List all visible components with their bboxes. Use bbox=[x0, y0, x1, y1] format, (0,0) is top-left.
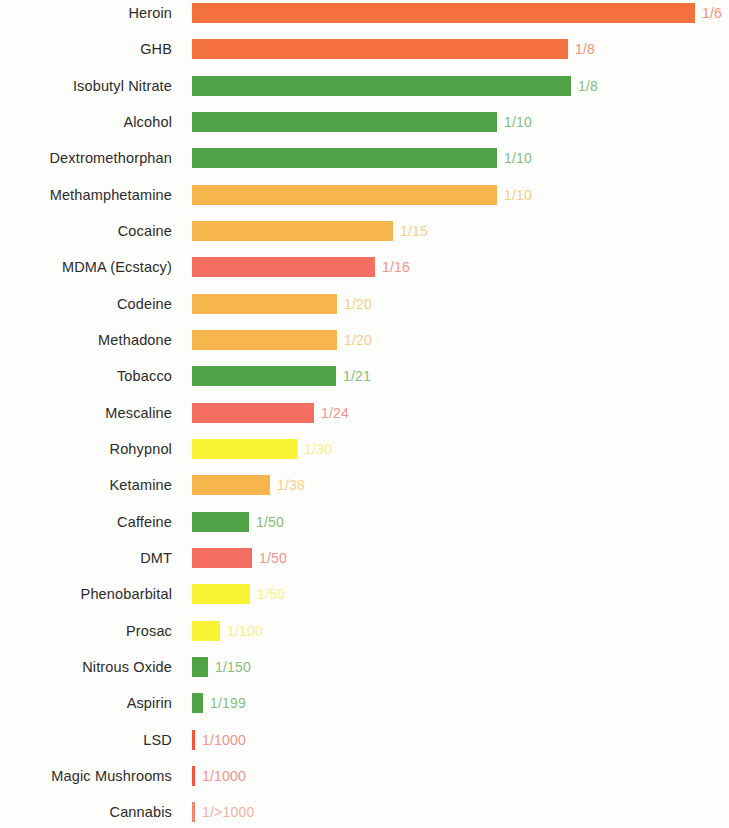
bar-container: 1/1000 bbox=[192, 730, 246, 750]
bar-value-label: 1/1000 bbox=[202, 766, 246, 786]
category-label: Dextromethorphan bbox=[0, 148, 172, 168]
bar-container: 1/20 bbox=[192, 330, 372, 350]
bar-value-label: 1/20 bbox=[344, 294, 372, 314]
category-label: Magic Mushrooms bbox=[0, 766, 172, 786]
category-label: Cannabis bbox=[0, 802, 172, 822]
bar bbox=[192, 766, 195, 786]
bar-value-label: 1/1000 bbox=[202, 730, 246, 750]
category-label: Alcohol bbox=[0, 112, 172, 132]
category-label: Methadone bbox=[0, 330, 172, 350]
bar-value-label: 1/150 bbox=[215, 657, 251, 677]
bar-container: 1/199 bbox=[192, 693, 246, 713]
category-label: Methamphetamine bbox=[0, 185, 172, 205]
bar-row: Heroin1/6 bbox=[0, 0, 729, 31]
bar-container: 1/50 bbox=[192, 512, 284, 532]
bar-row: Magic Mushrooms1/1000 bbox=[0, 758, 729, 794]
bar-container: 1/50 bbox=[192, 584, 285, 604]
category-label: Tobacco bbox=[0, 366, 172, 386]
category-label: Heroin bbox=[0, 3, 172, 23]
category-label: Rohypnol bbox=[0, 439, 172, 459]
bar bbox=[192, 3, 695, 23]
bar bbox=[192, 148, 497, 168]
bar-row: Isobutyl Nitrate1/8 bbox=[0, 68, 729, 104]
category-label: GHB bbox=[0, 39, 172, 59]
bar-container: 1/24 bbox=[192, 403, 349, 423]
bar-row: Codeine1/20 bbox=[0, 286, 729, 322]
bar bbox=[192, 584, 250, 604]
bar-value-label: 1/30 bbox=[304, 439, 332, 459]
bar-container: 1/38 bbox=[192, 475, 305, 495]
bar-container: 1/>1000 bbox=[192, 802, 254, 822]
bar-row: LSD1/1000 bbox=[0, 722, 729, 758]
bar-row: Cocaine1/15 bbox=[0, 213, 729, 249]
bar-value-label: 1/199 bbox=[210, 693, 246, 713]
bar-row: Ketamine1/38 bbox=[0, 467, 729, 503]
bar-container: 1/21 bbox=[192, 366, 371, 386]
bar bbox=[192, 439, 297, 459]
bar-value-label: 1/38 bbox=[277, 475, 305, 495]
bar-row: Rohypnol1/30 bbox=[0, 431, 729, 467]
category-label: Codeine bbox=[0, 294, 172, 314]
bar-value-label: 1/6 bbox=[702, 3, 722, 23]
bar-value-label: 1/50 bbox=[259, 548, 287, 568]
category-label: Ketamine bbox=[0, 475, 172, 495]
bar-value-label: 1/21 bbox=[343, 366, 371, 386]
bar bbox=[192, 221, 393, 241]
bar-value-label: 1/15 bbox=[400, 221, 428, 241]
bar-value-label: 1/50 bbox=[257, 584, 285, 604]
bar-value-label: 1/16 bbox=[382, 257, 410, 277]
bar-container: 1/16 bbox=[192, 257, 410, 277]
bar bbox=[192, 366, 336, 386]
bar-value-label: 1/10 bbox=[504, 148, 532, 168]
bar bbox=[192, 294, 337, 314]
bar-value-label: 1/8 bbox=[575, 39, 595, 59]
bar-value-label: 1/10 bbox=[504, 185, 532, 205]
bar-value-label: 1/>1000 bbox=[202, 802, 254, 822]
bar-row: Methamphetamine1/10 bbox=[0, 177, 729, 213]
bar-row: MDMA (Ecstacy)1/16 bbox=[0, 249, 729, 285]
bar-row: Mescaline1/24 bbox=[0, 395, 729, 431]
bar-container: 1/6 bbox=[192, 3, 722, 23]
bar-row: Tobacco1/21 bbox=[0, 358, 729, 394]
bar-row: Alcohol1/10 bbox=[0, 104, 729, 140]
bar-row: GHB1/8 bbox=[0, 31, 729, 67]
category-label: Aspirin bbox=[0, 693, 172, 713]
category-label: Nitrous Oxide bbox=[0, 657, 172, 677]
bar-container: 1/20 bbox=[192, 294, 372, 314]
bar-value-label: 1/24 bbox=[321, 403, 349, 423]
bar-container: 1/100 bbox=[192, 621, 263, 641]
category-label: Isobutyl Nitrate bbox=[0, 76, 172, 96]
bar bbox=[192, 330, 337, 350]
category-label: Cocaine bbox=[0, 221, 172, 241]
bar-container: 1/1000 bbox=[192, 766, 246, 786]
bar-row: DMT1/50 bbox=[0, 540, 729, 576]
bar-row: Prosac1/100 bbox=[0, 613, 729, 649]
bar-container: 1/10 bbox=[192, 185, 532, 205]
bar-container: 1/150 bbox=[192, 657, 251, 677]
category-label: Caffeine bbox=[0, 512, 172, 532]
category-label: Mescaline bbox=[0, 403, 172, 423]
bar bbox=[192, 76, 571, 96]
bar bbox=[192, 657, 208, 677]
bar-value-label: 1/50 bbox=[256, 512, 284, 532]
bar-container: 1/30 bbox=[192, 439, 332, 459]
bar bbox=[192, 693, 203, 713]
bar-container: 1/10 bbox=[192, 148, 532, 168]
bar-container: 1/8 bbox=[192, 76, 598, 96]
bar-row: Aspirin1/199 bbox=[0, 685, 729, 721]
bar-value-label: 1/8 bbox=[578, 76, 598, 96]
bar-row: Methadone1/20 bbox=[0, 322, 729, 358]
bar-container: 1/8 bbox=[192, 39, 595, 59]
bar bbox=[192, 802, 195, 822]
bar-row: Dextromethorphan1/10 bbox=[0, 140, 729, 176]
bar-row: Caffeine1/50 bbox=[0, 504, 729, 540]
bar bbox=[192, 512, 249, 532]
category-label: MDMA (Ecstacy) bbox=[0, 257, 172, 277]
bar bbox=[192, 621, 220, 641]
horizontal-bar-chart: Heroin1/6GHB1/8Isobutyl Nitrate1/8Alcoho… bbox=[0, 0, 729, 828]
category-label: DMT bbox=[0, 548, 172, 568]
bar-value-label: 1/100 bbox=[227, 621, 263, 641]
bar-container: 1/15 bbox=[192, 221, 428, 241]
bar-row: Cannabis1/>1000 bbox=[0, 794, 729, 828]
bar bbox=[192, 39, 568, 59]
